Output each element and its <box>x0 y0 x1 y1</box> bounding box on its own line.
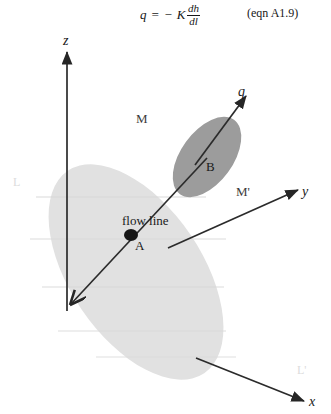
x-axis-line <box>196 358 304 401</box>
figure-page: q = − K dh dl (eqn A1.9) <box>0 0 331 414</box>
faint-label-l: L <box>13 176 20 188</box>
diagram-canvas <box>0 0 331 414</box>
x-axis-label: x <box>309 395 315 409</box>
y-axis-line <box>168 190 298 248</box>
plane-m-prime-label: M' <box>236 185 250 198</box>
flow-line-label: flow line <box>122 214 169 227</box>
faint-label-l-prime: L' <box>297 364 307 376</box>
z-axis-label: z <box>63 34 68 48</box>
y-axis-label: y <box>302 185 308 199</box>
plane-m-label: M <box>136 112 148 125</box>
flux-vector-label: q <box>238 85 245 99</box>
point-a-label: A <box>135 239 144 252</box>
point-b-label: B <box>206 160 215 173</box>
